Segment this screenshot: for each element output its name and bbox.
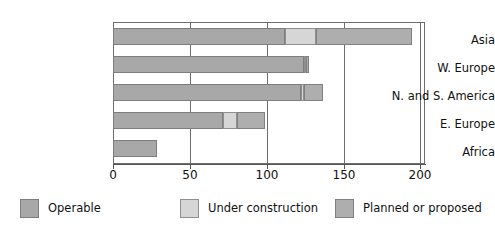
legend-swatch-planned-or-proposed [335,199,354,218]
legend-label-planned-or-proposed: Planned or proposed [363,202,482,214]
legend-label-operable: Operable [48,202,101,214]
bar-segment-planned-or-proposed [304,84,323,101]
bar-segment-planned-or-proposed [306,56,309,73]
y-axis-label-w-europe: W. Europe [387,62,495,74]
y-axis-label-africa: Africa [387,146,495,158]
x-tick-label-100: 100 [256,168,279,182]
x-tick-label-150: 150 [333,168,356,182]
chart-legend: Operable Under construction Planned or p… [0,196,495,224]
legend-label-under-construction: Under construction [208,202,318,214]
y-axis-label-n-and-s-america: N. and S. America [387,90,495,102]
bar-segment-planned-or-proposed [316,28,412,45]
bar-chart: Asia W. Europe N. and S. America E. Euro… [0,0,495,228]
x-tick-label-0: 0 [109,168,117,182]
bar-segment-operable [113,84,301,101]
bar-segment-operable [113,28,285,45]
x-tick-label-50: 50 [182,168,197,182]
legend-item-under-construction: Under construction [180,196,318,220]
y-axis-label-e-europe: E. Europe [387,118,495,130]
bar-segment-operable [113,56,304,73]
bar-segment-under-construction [285,28,316,45]
bar-segment-operable [113,140,157,157]
bar-segment-operable [113,112,223,129]
x-tick-label-200: 200 [409,168,432,182]
legend-swatch-under-construction [180,199,199,218]
legend-item-operable: Operable [20,196,101,220]
x-axis-line [113,164,426,165]
legend-item-planned-or-proposed: Planned or proposed [335,196,482,220]
bar-segment-planned-or-proposed [237,112,265,129]
bar-segment-under-construction [223,112,236,129]
legend-swatch-operable [20,199,39,218]
